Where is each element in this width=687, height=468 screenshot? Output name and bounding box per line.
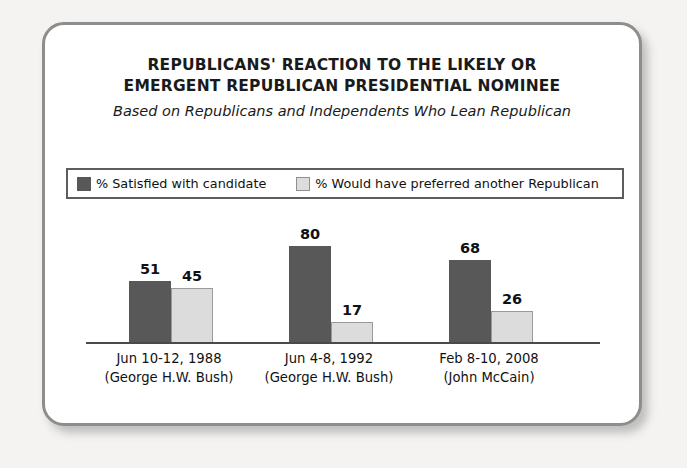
bar-preferred[interactable] bbox=[331, 322, 373, 342]
bar-satisfied[interactable] bbox=[129, 281, 171, 342]
chart-legend: % Satisfied with candidate % Would have … bbox=[66, 168, 624, 199]
page-title-line-2: EMERGENT REPUBLICAN PRESIDENTIAL NOMINEE bbox=[45, 76, 639, 97]
page-title-line-1: REPUBLICANS' REACTION TO THE LIKELY OR bbox=[45, 55, 639, 76]
category-sublabel: (George H.W. Bush) bbox=[81, 368, 257, 387]
category-date: Feb 8-10, 2008 bbox=[401, 349, 577, 368]
legend-label-satisfied: % Satisfied with candidate bbox=[96, 176, 266, 191]
category-label: Jun 4-8, 1992 (George H.W. Bush) bbox=[241, 349, 417, 387]
bar-satisfied[interactable] bbox=[449, 260, 491, 342]
bar-value-preferred: 26 bbox=[490, 291, 534, 307]
bar-satisfied[interactable] bbox=[289, 246, 331, 342]
bar-value-preferred: 45 bbox=[170, 268, 214, 284]
x-axis-line bbox=[86, 342, 600, 344]
title-block: REPUBLICANS' REACTION TO THE LIKELY OR E… bbox=[45, 55, 639, 122]
chart-frame: REPUBLICANS' REACTION TO THE LIKELY OR E… bbox=[42, 22, 642, 426]
chart-page: REPUBLICANS' REACTION TO THE LIKELY OR E… bbox=[0, 0, 687, 468]
bar-value-satisfied: 51 bbox=[128, 261, 172, 277]
bar-preferred[interactable] bbox=[491, 311, 533, 342]
chart-subtitle: Based on Republicans and Independents Wh… bbox=[45, 100, 639, 122]
category-label: Feb 8-10, 2008 (John McCain) bbox=[401, 349, 577, 387]
legend-item-satisfied[interactable]: % Satisfied with candidate bbox=[77, 176, 266, 191]
category-date: Jun 4-8, 1992 bbox=[241, 349, 417, 368]
bar-value-satisfied: 80 bbox=[288, 226, 332, 242]
category-date: Jun 10-12, 1988 bbox=[81, 349, 257, 368]
legend-swatch-light-icon bbox=[296, 177, 310, 191]
bar-value-satisfied: 68 bbox=[448, 240, 492, 256]
bar-preferred[interactable] bbox=[171, 288, 213, 342]
bar-value-preferred: 17 bbox=[330, 302, 374, 318]
legend-item-preferred[interactable]: % Would have preferred another Republica… bbox=[296, 176, 598, 191]
legend-label-preferred: % Would have preferred another Republica… bbox=[315, 176, 598, 191]
legend-swatch-dark-icon bbox=[77, 177, 91, 191]
category-sublabel: (George H.W. Bush) bbox=[241, 368, 417, 387]
category-label: Jun 10-12, 1988 (George H.W. Bush) bbox=[81, 349, 257, 387]
category-sublabel: (John McCain) bbox=[401, 368, 577, 387]
